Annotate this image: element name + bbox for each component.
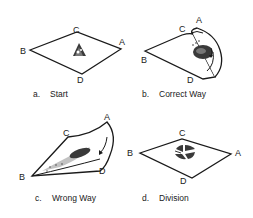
vertex-label-a: A	[104, 113, 110, 122]
vertex-label-b: B	[141, 56, 147, 65]
caption-letter: b.	[142, 89, 149, 99]
panel-c-wrong-way: C A B D c. Wrong Way	[0, 105, 126, 218]
vertex-label-c: C	[179, 129, 186, 138]
caption-text: Start	[50, 89, 68, 99]
vertex-label-d: D	[187, 76, 194, 85]
vertex-label-c: C	[179, 25, 186, 34]
vertex-label-a: A	[235, 149, 241, 158]
vertex-label-c: C	[73, 26, 80, 35]
caption-letter: a.	[33, 89, 40, 99]
vertex-label-a: A	[196, 16, 202, 25]
caption-letter: c.	[35, 193, 42, 203]
vertex-label-d: D	[77, 76, 84, 85]
vertex-label-d: D	[99, 167, 106, 176]
vertex-label-b: B	[20, 47, 26, 56]
caption-text: Correct Way	[159, 89, 206, 99]
caption-text: Division	[159, 193, 189, 203]
vertex-label-d: D	[180, 177, 187, 186]
vertex-label-b: B	[19, 173, 25, 182]
panel-b-correct-way: C A B D b. Correct Way	[125, 0, 253, 105]
caption-text: Wrong Way	[52, 193, 96, 203]
vertex-label-b: B	[127, 149, 133, 158]
caption-letter: d.	[142, 193, 149, 203]
vertex-label-c: C	[63, 129, 70, 138]
panel-a-start: C A B D a. Start	[0, 0, 126, 105]
panel-d-division: C A B D d. Division	[125, 105, 253, 218]
